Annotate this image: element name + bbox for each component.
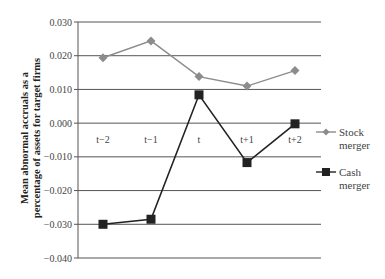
square-marker — [195, 90, 204, 99]
square-marker-icon — [322, 168, 330, 176]
y-tick-label: −0.040 — [44, 253, 72, 264]
legend-item-cash-merger: Cashmerger — [316, 166, 370, 191]
square-marker — [99, 220, 108, 229]
y-tick-label: 0.000 — [50, 118, 73, 129]
square-marker — [243, 158, 252, 167]
square-marker — [291, 119, 300, 128]
series-stock-merger — [99, 36, 300, 90]
series-line — [103, 95, 295, 224]
legend-label: merger — [339, 139, 370, 151]
x-category-label: t+2 — [288, 134, 301, 145]
y-tick-labels: 0.0300.0200.0100.000−0.010−0.020−0.030−0… — [44, 17, 72, 264]
y-axis-title-line: Mean abnormal accruals as a — [19, 71, 30, 204]
legend-label: Stock — [339, 126, 365, 138]
y-tick-label: 0.030 — [50, 17, 73, 28]
y-tick-label: 0.010 — [50, 84, 73, 95]
diamond-marker — [99, 53, 108, 62]
legend-label: Cash — [339, 166, 362, 178]
y-tick-label: 0.020 — [50, 50, 73, 61]
x-category-label: t — [198, 134, 201, 145]
y-axis-title: Mean abnormal accruals as apercentage of… — [19, 58, 42, 218]
y-axis-title-line: percentage of assets for target firms — [31, 58, 42, 218]
legend: StockmergerCashmerger — [316, 126, 370, 191]
series-cash-merger — [99, 90, 300, 228]
x-category-label: t−2 — [96, 134, 109, 145]
series-lines — [99, 36, 300, 228]
x-category-label: t+1 — [240, 134, 253, 145]
legend-label: merger — [339, 179, 370, 191]
y-tick-label: −0.020 — [44, 185, 72, 196]
legend-item-stock-merger: Stockmerger — [316, 126, 370, 151]
line-chart: 0.0300.0200.0100.000−0.010−0.020−0.030−0… — [0, 0, 385, 279]
diamond-marker-icon — [323, 129, 330, 136]
diamond-marker — [291, 66, 300, 75]
square-marker — [147, 215, 156, 224]
x-category-label: t−1 — [144, 134, 157, 145]
y-tick-label: −0.030 — [44, 219, 72, 230]
y-tick-label: −0.010 — [44, 151, 72, 162]
